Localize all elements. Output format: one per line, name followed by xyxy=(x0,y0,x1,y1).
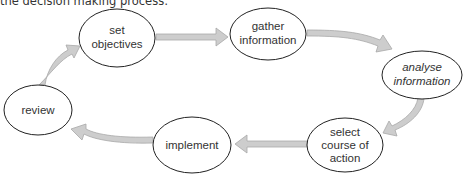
node-label: gather xyxy=(252,20,285,32)
arrow-gather-to-analyse xyxy=(307,30,392,52)
node-label: select xyxy=(330,126,361,138)
node-analyse-information: analyse information xyxy=(382,51,462,99)
node-label: information xyxy=(394,75,451,87)
arrow-review-to-set xyxy=(39,45,80,85)
decision-cycle-diagram: set objectives gather information analys… xyxy=(0,0,465,177)
node-gather-information: gather information xyxy=(230,8,306,60)
arrow-analyse-to-select xyxy=(383,98,424,136)
node-review: review xyxy=(4,85,72,135)
arrow-select-to-implement xyxy=(235,135,307,153)
node-label: information xyxy=(240,34,297,46)
arrow-set-to-gather xyxy=(156,28,228,46)
node-label: course of xyxy=(321,139,369,151)
arrow-implement-to-review xyxy=(71,124,153,143)
node-select-course-of-action: select course of action xyxy=(307,118,383,172)
node-label: action xyxy=(330,152,361,164)
node-label: implement xyxy=(165,139,219,151)
node-implement: implement xyxy=(153,117,231,173)
node-label: analyse xyxy=(402,61,442,73)
node-label: objectives xyxy=(91,38,142,50)
node-set-objectives: set objectives xyxy=(79,9,155,67)
node-label: review xyxy=(21,104,55,116)
node-label: set xyxy=(109,24,125,36)
